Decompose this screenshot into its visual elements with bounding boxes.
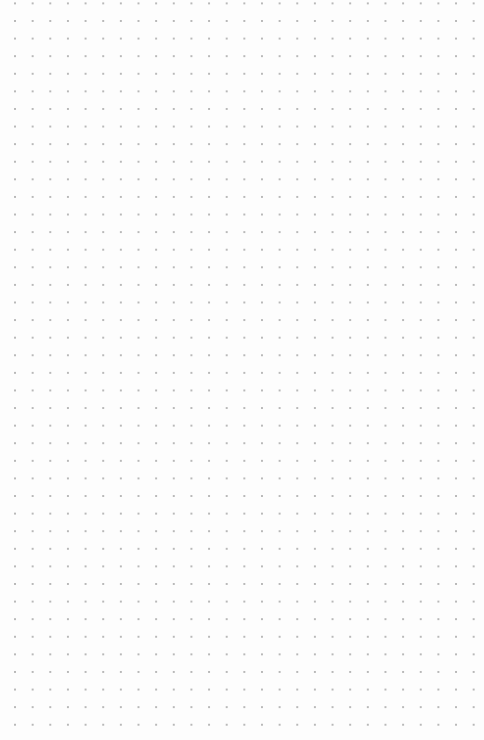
dot-grid-canvas[interactable] [0, 0, 484, 740]
